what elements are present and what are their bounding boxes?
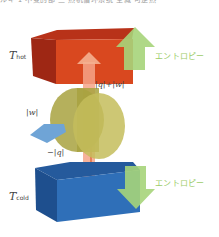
t-cold-label: Tcold [9,185,29,204]
work-label: |w| [26,108,38,117]
t-hot-label: Thot [9,44,26,63]
heat-engine-diagram [0,0,219,237]
heat-plus-work-label: |q|+|w| [95,80,124,89]
cold-heat-label: −|q| [47,148,64,157]
entropy-label-top: エントロピー [155,50,205,61]
entropy-label-bottom: エントロピー [155,177,205,188]
hot-reservoir-block [31,28,134,84]
